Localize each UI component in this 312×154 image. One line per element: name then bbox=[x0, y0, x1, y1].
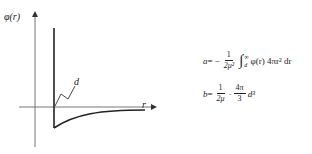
eq-b-equals: = bbox=[208, 89, 213, 99]
d-marker-zigzag bbox=[55, 86, 75, 106]
eq-b-tail: d³ bbox=[248, 89, 255, 99]
eq-a-sign: − bbox=[215, 56, 220, 66]
eq-a-equals: = bbox=[208, 56, 213, 66]
attractive-tail-curve bbox=[54, 110, 145, 128]
equation-b: b = 1 2μ · 4π 3 d³ bbox=[203, 83, 255, 104]
d-label: d bbox=[74, 76, 79, 87]
integral-lower: d bbox=[244, 61, 248, 69]
eq-b-frac1-num: 1 bbox=[217, 83, 225, 94]
eq-b-frac2-den: 3 bbox=[236, 94, 244, 104]
eq-a-frac-den: 2μ² bbox=[222, 61, 236, 71]
eq-a-fraction: 1 2μ² bbox=[222, 50, 236, 71]
eq-b-fraction-2: 4π 3 bbox=[234, 83, 246, 104]
eq-b-frac2-num: 4π bbox=[234, 83, 246, 94]
eq-b-frac1-den: 2μ bbox=[215, 94, 227, 104]
y-axis-label: φ(r) bbox=[4, 11, 20, 22]
integral-sign-icon: ∫ bbox=[239, 53, 243, 68]
integral-upper: ∞ bbox=[244, 53, 248, 61]
integral-limits: ∞ d bbox=[244, 53, 248, 69]
eq-a-integrand: φ(r) 4πr² dr bbox=[250, 56, 291, 66]
eq-b-dot: · bbox=[229, 89, 232, 99]
eq-b-fraction-1: 1 2μ bbox=[215, 83, 227, 104]
eq-a-frac-num: 1 bbox=[225, 50, 233, 61]
equation-a: a = − 1 2μ² ∫ ∞ d φ(r) 4πr² dr bbox=[203, 50, 291, 71]
x-axis-label: r bbox=[142, 99, 146, 110]
potential-plot bbox=[0, 0, 160, 154]
